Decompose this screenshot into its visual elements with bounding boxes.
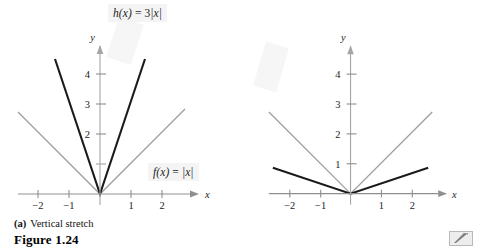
y-tick-label-3-b: 3 — [335, 99, 340, 110]
x-tick-label-1-a: 1 — [128, 200, 133, 210]
x-axis-arrow-b — [438, 190, 447, 197]
x-tick-label--1-b: −1 — [315, 200, 326, 210]
x-tick-label-1-b: 1 — [379, 200, 384, 210]
y-tick-label-2-a: 2 — [85, 129, 90, 140]
y-tick-label-3-a: 3 — [85, 99, 90, 110]
caption-tag-a: (a) — [14, 218, 26, 229]
y-tick-label-4-b: 4 — [335, 69, 341, 80]
x-tick-label-2-b: 2 — [410, 200, 415, 210]
curve-label-h: h(x) = 3|x| — [108, 4, 167, 22]
y-axis-arrow-a — [97, 45, 104, 54]
caption-text-a: Vertical stretch — [30, 218, 93, 229]
x-axis-name-a: x — [204, 189, 210, 200]
x-tick-label-2-a: 2 — [159, 200, 164, 210]
y-tick-label-2-b: 2 — [335, 129, 340, 140]
x-axis-arrow-a — [190, 191, 199, 198]
y-axis-arrow-b — [347, 45, 354, 54]
x-axis-name-b: x — [451, 189, 457, 200]
y-tick-label-4-a: 4 — [85, 69, 91, 80]
panel-a-vertical-stretch: −2 −1 1 2 2 3 4 x y h(x) = 3|x| f(x) = |… — [0, 0, 241, 252]
pencil-icon[interactable] — [449, 231, 473, 246]
x-tick-label--2-a: −2 — [32, 200, 43, 210]
figure-1-24: −2 −1 1 2 2 3 4 x y h(x) = 3|x| f(x) = |… — [0, 0, 483, 252]
plot-a: −2 −1 1 2 2 3 4 x y — [0, 0, 241, 210]
y-tick-label-1-b: 1 — [335, 159, 340, 170]
panel-b-vertical-shrink: −2 −1 1 2 1 2 3 4 x y g(x) = 13|x| f(x) … — [241, 0, 482, 252]
figure-number: Figure 1.24 — [14, 232, 79, 248]
plot-b: −2 −1 1 2 1 2 3 4 x y — [241, 0, 482, 210]
y-axis-name-a: y — [89, 32, 95, 43]
caption-panel-a: (a)Vertical stretch — [14, 218, 94, 229]
x-tick-label--1-a: −1 — [63, 200, 74, 210]
x-tick-label--2-b: −2 — [284, 200, 295, 210]
curve-label-f-panel-a: f(x) = |x| — [148, 163, 199, 181]
y-axis-name-b: y — [340, 32, 346, 43]
